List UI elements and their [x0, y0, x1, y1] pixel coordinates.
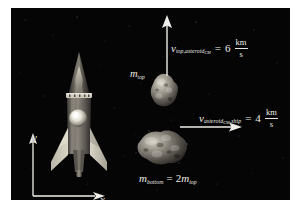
- velocity-cm-lhs: vasteroidCM,ship: [199, 113, 241, 124]
- velocity-cm-subscript-sub: CM: [223, 120, 229, 125]
- velocity-top-subscript-sub: CM: [204, 50, 210, 55]
- mass-top-label: mtop: [130, 69, 145, 80]
- velocity-cm-unit-numerator: km: [265, 108, 278, 118]
- velocity-cm-subscript-main: asteroid: [204, 118, 223, 124]
- mass-bottom-equation: mbottom=2mtop: [139, 173, 197, 184]
- mass-top-symbol: m: [130, 68, 138, 79]
- velocity-top-equation: vtop,asteroidCM = 6 km s: [171, 38, 248, 58]
- mass-bottom-subscript: bottom: [147, 179, 164, 185]
- axis-label-y: y: [32, 132, 37, 143]
- velocity-top-lhs: vtop,asteroidCM: [171, 43, 211, 54]
- mass-bottom-rhs-symbol: m: [181, 172, 189, 184]
- velocity-cm-subscript-tail: ,ship: [230, 118, 241, 124]
- velocity-cm-unit: km s: [265, 108, 278, 128]
- mass-top-subscript: top: [138, 74, 145, 80]
- velocity-cm-value: 4: [255, 113, 261, 124]
- velocity-top-unit: km s: [235, 38, 248, 58]
- mass-bottom-symbol: m: [139, 172, 147, 184]
- velocity-cm-equation: vasteroidCM,ship = 4 km s: [199, 108, 278, 128]
- coordinate-axes: [25, 130, 109, 200]
- velocity-top-equals: =: [215, 43, 221, 54]
- space-background-panel: x y mtop mbottom=2mtop vtop,asteroidCM =…: [11, 8, 290, 200]
- mass-bottom-equals: =: [166, 172, 172, 184]
- velocity-top-unit-denominator: s: [238, 49, 243, 59]
- velocity-top-value: 6: [225, 43, 231, 54]
- velocity-top-unit-numerator: km: [235, 38, 248, 48]
- figure-root: x y mtop mbottom=2mtop vtop,asteroidCM =…: [0, 0, 301, 214]
- velocity-cm-unit-denominator: s: [269, 119, 274, 129]
- velocity-cm-equals: =: [245, 113, 251, 124]
- velocity-top-subscript-main: top,asteroid: [176, 48, 204, 54]
- axis-label-x: x: [100, 194, 105, 200]
- mass-bottom-rhs-subscript: top: [189, 179, 197, 185]
